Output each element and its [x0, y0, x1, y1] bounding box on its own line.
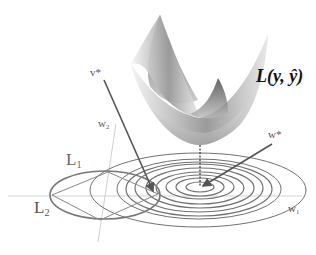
w-star-label: w*: [268, 128, 281, 140]
w1-axis-label: w1: [288, 202, 299, 215]
l2-main: L: [34, 198, 44, 217]
loss-surface: [131, 15, 268, 145]
v-star-label: v*: [90, 66, 101, 78]
l1-main: L: [66, 150, 76, 169]
l1-label: L1: [66, 150, 81, 170]
loss-contours: [90, 153, 306, 227]
w1-main: w: [288, 202, 296, 214]
l2-label: L2: [34, 198, 49, 218]
w2-axis-label: w2: [98, 117, 109, 130]
w2-main: w: [98, 117, 106, 129]
w2-sub: 2: [106, 123, 109, 130]
l1-sub: 1: [76, 159, 81, 170]
w2-axis: [98, 124, 116, 242]
loss-function-label: L(y, ŷ): [256, 66, 303, 87]
l2-sub: 2: [44, 207, 49, 218]
w1-sub: 1: [296, 208, 299, 215]
